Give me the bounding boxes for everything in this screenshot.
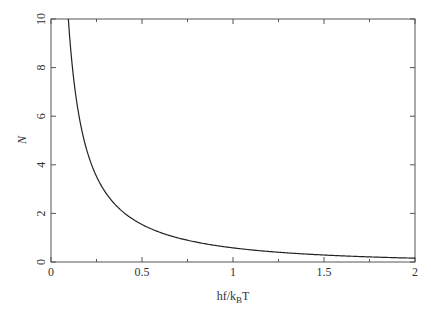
y-axis-ticks: 0246810 xyxy=(34,13,415,265)
data-curve xyxy=(68,19,415,258)
y-tick-label: 10 xyxy=(34,13,48,25)
plot-frame xyxy=(51,19,415,262)
x-tick-label: 0 xyxy=(48,265,54,279)
y-tick-label: 6 xyxy=(34,113,48,119)
x-tick-label: 1 xyxy=(230,265,236,279)
y-tick-label: 2 xyxy=(34,210,48,216)
x-axis-ticks: 00.511.52 xyxy=(48,19,418,279)
x-tick-label: 2 xyxy=(412,265,418,279)
chart: 00.511.52 0246810 hf/kBT N xyxy=(0,0,431,313)
x-tick-label: 0.5 xyxy=(135,265,150,279)
y-axis-label: N xyxy=(15,135,29,145)
x-tick-label: 1.5 xyxy=(317,265,332,279)
y-tick-label: 0 xyxy=(34,259,48,265)
x-axis-label: hf/kBT xyxy=(217,289,250,305)
y-tick-label: 8 xyxy=(34,65,48,71)
y-tick-label: 4 xyxy=(34,162,48,168)
